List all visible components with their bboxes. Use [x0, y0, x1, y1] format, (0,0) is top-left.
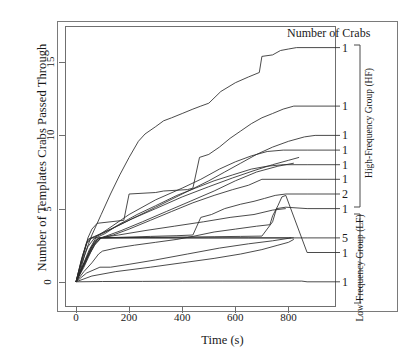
series-line	[76, 238, 291, 282]
y-tick-label: 5	[41, 206, 53, 212]
y-tick-label: 15	[44, 57, 56, 68]
x-tick-label: 0	[73, 311, 79, 323]
series-crab-count-label: 1	[342, 201, 348, 216]
x-axis-title-text: Time (s)	[161, 333, 243, 347]
series-line	[76, 238, 307, 282]
group-caption-hf: High-Frequency Group (HF)	[364, 53, 374, 193]
series-crab-count-label: 1	[342, 172, 348, 187]
series-crab-count-label: 1	[342, 245, 348, 260]
x-tick-label: 400	[174, 311, 191, 323]
series-curves	[76, 48, 315, 282]
series-crab-count-label: 1	[342, 40, 348, 55]
series-crab-count-label: 5	[342, 230, 348, 245]
plot-frame	[66, 27, 336, 307]
series-line	[76, 239, 294, 281]
legend-title: Number of Crabs	[287, 26, 370, 41]
series-crab-count-label: 1	[342, 274, 348, 289]
group-caption-lf: Low-Frequency Group (LF)	[355, 198, 365, 338]
x-axis-title: Time (s)	[0, 333, 405, 348]
series-crab-count-label: 1	[342, 157, 348, 172]
y-tick-label: 10	[44, 130, 56, 141]
x-tick-label: 200	[121, 311, 138, 323]
bracket-high-frequency	[354, 45, 360, 207]
series-crab-count-label: 1	[342, 128, 348, 143]
series-line	[76, 209, 286, 282]
series-line	[76, 195, 307, 281]
x-tick-label: 600	[227, 311, 244, 323]
series-crab-count-label: 1	[342, 143, 348, 158]
series-line	[76, 179, 307, 281]
series-crab-count-label: 2	[342, 186, 348, 201]
series-line	[76, 163, 294, 282]
series-line	[76, 48, 297, 282]
series-line	[76, 157, 299, 281]
chart-root: Number of Templates Crabs Passed Through…	[0, 0, 405, 356]
x-tick-label: 800	[280, 311, 297, 323]
series-line	[76, 238, 294, 282]
series-line	[76, 207, 307, 282]
series-line	[76, 281, 307, 282]
y-tick-label: 0	[41, 279, 53, 285]
series-line	[76, 106, 294, 282]
series-crab-count-label: 1	[342, 99, 348, 114]
